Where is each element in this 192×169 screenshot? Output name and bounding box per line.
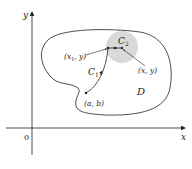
point-end-label: (x, y) [138,66,157,75]
diagram-canvas: y x 0 D C1 C2 (a, b) (x1, y) (x, y) [0,0,192,169]
c1-label: C1 [88,67,99,78]
x-axis-label: x [181,132,186,142]
point-start [85,92,87,94]
point-end [121,47,123,49]
point-mid [107,47,109,49]
point-start-label: (a, b) [84,99,104,108]
origin-label: 0 [24,133,29,142]
point-mid-label: (x1, y) [64,52,86,62]
y-axis-label: y [22,10,29,20]
region-label: D [136,86,145,97]
